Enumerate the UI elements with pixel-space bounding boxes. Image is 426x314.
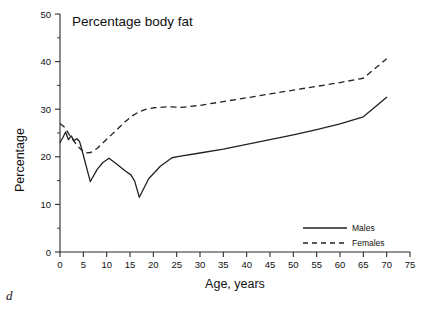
body-fat-chart: 01020304050 0510152025303540455055606570… bbox=[0, 0, 426, 314]
x-tick-label: 75 bbox=[405, 259, 416, 270]
x-tick-label: 10 bbox=[101, 259, 112, 270]
legend-label-males: Males bbox=[352, 223, 375, 233]
chart-title: Percentage body fat bbox=[72, 14, 193, 29]
x-tick-label: 0 bbox=[57, 259, 62, 270]
x-tick-label: 55 bbox=[311, 259, 322, 270]
y-tick-label: 0 bbox=[46, 247, 51, 258]
panel-label: d bbox=[6, 288, 13, 303]
y-tick-label: 50 bbox=[40, 9, 51, 20]
figure-bottom-edge bbox=[0, 308, 426, 314]
x-tick-label: 40 bbox=[241, 259, 252, 270]
x-axis-title: Age, years bbox=[205, 277, 265, 291]
x-tick-label: 25 bbox=[171, 259, 182, 270]
y-tick-label: 20 bbox=[40, 151, 51, 162]
legend-label-females: Females bbox=[352, 238, 385, 248]
y-tick-label: 10 bbox=[40, 199, 51, 210]
x-tick-label: 15 bbox=[125, 259, 136, 270]
x-tick-label: 60 bbox=[335, 259, 346, 270]
x-tick-label: 65 bbox=[358, 259, 369, 270]
x-tick-label: 30 bbox=[195, 259, 206, 270]
x-tick-label: 70 bbox=[381, 259, 392, 270]
y-tick-label: 30 bbox=[40, 104, 51, 115]
x-tick-label: 35 bbox=[218, 259, 229, 270]
x-tick-label: 45 bbox=[265, 259, 276, 270]
x-tick-label: 50 bbox=[288, 259, 299, 270]
x-tick-label: 20 bbox=[148, 259, 159, 270]
y-tick-label: 40 bbox=[40, 56, 51, 67]
x-tick-label: 5 bbox=[81, 259, 86, 270]
y-axis-title: Percentage bbox=[13, 128, 27, 192]
